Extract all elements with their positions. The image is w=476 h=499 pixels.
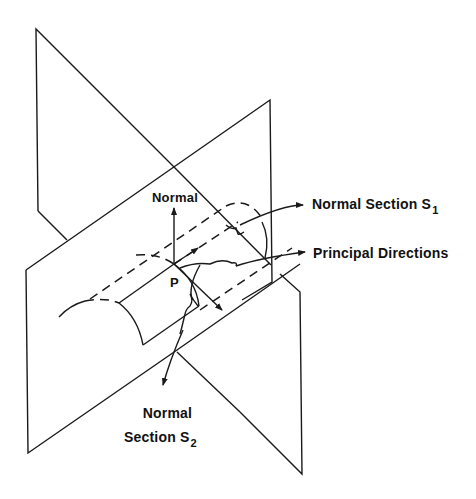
normal-label: Normal (152, 190, 198, 205)
point-p-label: P (170, 275, 179, 290)
normal-label-text: Normal (152, 190, 198, 205)
s2-subscript: 2 (191, 437, 197, 449)
principal-directions-text: Principal Directions (313, 245, 448, 261)
normal-section-s2-line2: Section S2 (124, 425, 197, 450)
section-s2-text: Section S (124, 429, 190, 445)
principal-directions-label: Principal Directions (313, 245, 448, 261)
surface-patch (59, 203, 292, 345)
normal-section-s1-label: Normal Section S1 (312, 196, 438, 212)
s1-subscript: 1 (432, 204, 438, 216)
point-p-text: P (170, 275, 179, 290)
normal-section-s2-line1: Normal (124, 401, 197, 425)
normal-section-s1-text: Normal Section S (312, 196, 431, 212)
principal-direction-arrow-1 (174, 248, 198, 264)
normal-section-s2-label: Normal Section S2 (124, 401, 197, 450)
